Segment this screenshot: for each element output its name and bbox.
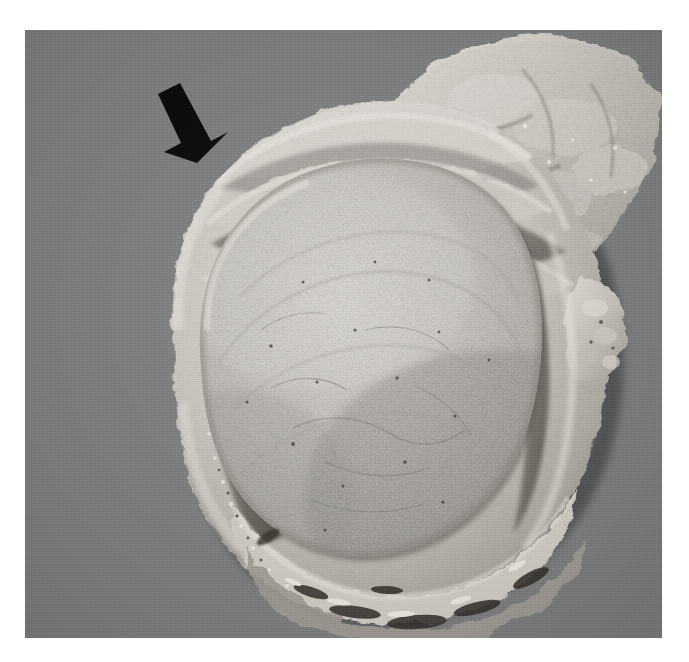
pointer-arrow — [158, 83, 228, 163]
annotation-layer — [25, 30, 662, 638]
figure-plate — [0, 0, 689, 662]
specimen-photograph — [25, 30, 662, 638]
caption-margin — [0, 638, 689, 662]
